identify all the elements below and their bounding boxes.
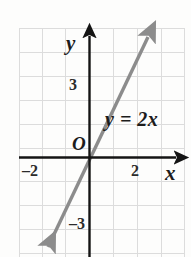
line-y-equals-2x: [48, 37, 148, 247]
x-axis-label: x: [165, 163, 176, 184]
grid-lines: [19, 28, 185, 257]
origin-label: O: [72, 134, 86, 153]
y-axis-label: y: [66, 33, 75, 54]
equation-label: y = 2x: [105, 109, 158, 129]
y-tick-label-3: 3: [69, 77, 77, 93]
graph-figure: y x O 3 –3 2 –2 y = 2x: [0, 0, 191, 257]
y-tick-label-minus-3: –3: [69, 216, 85, 232]
coordinate-plane: [0, 0, 191, 257]
x-tick-label-minus-2: –2: [22, 163, 38, 179]
x-tick-label-2: 2: [131, 163, 139, 179]
